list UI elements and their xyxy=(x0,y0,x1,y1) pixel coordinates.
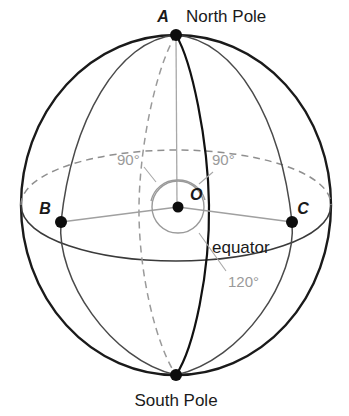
sphere-diagram-figure: A North Pole South Pole B C O 90° 90° eq… xyxy=(0,0,349,416)
vertex-dot-south-pole xyxy=(170,369,182,381)
label-equator: equator xyxy=(212,238,270,257)
vertex-dot-b xyxy=(55,216,67,228)
label-angle-center-120: 120° xyxy=(228,273,259,290)
label-point-b: B xyxy=(39,200,51,217)
label-north-pole: North Pole xyxy=(186,7,266,26)
label-point-c: C xyxy=(297,200,309,217)
label-point-a: A xyxy=(156,8,169,25)
label-point-o: O xyxy=(190,186,203,203)
vertex-dot-o xyxy=(173,202,184,213)
vertex-dot-c xyxy=(286,216,298,228)
label-angle-left-90: 90° xyxy=(117,151,140,168)
label-south-pole: South Pole xyxy=(134,391,217,410)
label-angle-right-90: 90° xyxy=(212,151,235,168)
vertex-dot-north-pole xyxy=(170,29,182,41)
sphere-diagram-canvas: A North Pole South Pole B C O 90° 90° eq… xyxy=(0,0,349,416)
